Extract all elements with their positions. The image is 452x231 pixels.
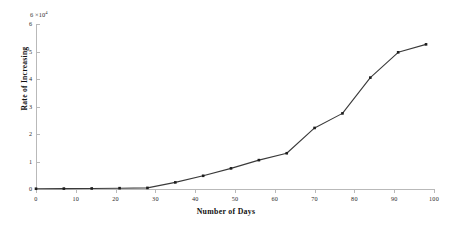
x-tick: [155, 189, 156, 193]
y-tick: [36, 24, 40, 25]
data-point-marker: [230, 167, 233, 170]
data-point-marker: [202, 175, 205, 178]
y-tick: [36, 162, 40, 163]
y-tick: [36, 107, 40, 108]
x-tick-label: 80: [343, 195, 365, 202]
x-tick-label: 50: [224, 195, 246, 202]
data-point-marker: [313, 127, 316, 130]
x-tick-label: 70: [304, 195, 326, 202]
data-point-marker: [174, 181, 177, 184]
x-tick: [195, 189, 196, 193]
y-tick-label: 6: [24, 20, 32, 27]
x-tick-label: 100: [423, 195, 445, 202]
y-tick: [36, 52, 40, 53]
x-tick-label: 0: [25, 195, 47, 202]
x-tick: [116, 189, 117, 193]
y-tick-label: 3: [24, 103, 32, 110]
x-tick: [394, 189, 395, 193]
x-tick: [315, 189, 316, 193]
y-tick-label: 5: [24, 48, 32, 55]
y-tick: [36, 134, 40, 135]
x-tick: [434, 189, 435, 193]
x-tick-label: 30: [144, 195, 166, 202]
data-point-marker: [425, 43, 428, 46]
x-tick: [76, 189, 77, 193]
x-tick: [354, 189, 355, 193]
data-point-marker: [341, 112, 344, 115]
y-tick-label: 2: [24, 130, 32, 137]
y-tick-label: 0: [24, 185, 32, 192]
x-tick-label: 90: [383, 195, 405, 202]
data-point-marker: [285, 152, 288, 155]
data-point-marker: [258, 159, 261, 162]
data-point-marker: [369, 76, 372, 79]
series-markers: [35, 43, 428, 190]
x-axis-title: Number of Days: [126, 207, 326, 216]
x-tick-label: 60: [264, 195, 286, 202]
x-tick: [235, 189, 236, 193]
y-exponent-mult: ×10: [33, 11, 45, 18]
y-exponent-power: 4: [45, 10, 47, 15]
series-line: [36, 44, 426, 188]
chart-figure: 6 ×104 Rate of Increasing Number of Days…: [0, 0, 452, 231]
y-tick: [36, 79, 40, 80]
y-axis-exponent-label: 6 ×104: [30, 10, 48, 18]
x-tick-label: 10: [65, 195, 87, 202]
y-tick-label: 1: [24, 158, 32, 165]
data-point-marker: [397, 51, 400, 54]
x-tick-label: 20: [105, 195, 127, 202]
y-tick-label: 4: [24, 75, 32, 82]
x-tick: [36, 189, 37, 193]
x-tick-label: 40: [184, 195, 206, 202]
x-tick: [275, 189, 276, 193]
